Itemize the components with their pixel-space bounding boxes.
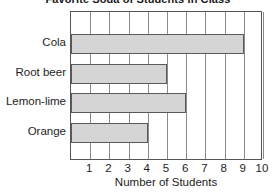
bar: [71, 34, 244, 54]
category-label: Lemon-lime: [0, 95, 66, 107]
x-tick-label: 10: [251, 162, 273, 174]
gridline: [263, 12, 264, 159]
value-axis-ticks: 12345678910: [70, 162, 262, 176]
category-label: Orange: [0, 125, 66, 137]
x-axis-title: Number of Students: [70, 176, 262, 188]
bar: [71, 123, 148, 143]
bar: [71, 93, 186, 113]
category-label: Cola: [0, 36, 66, 48]
gridline: [244, 12, 245, 159]
category-axis-labels: ColaRoot beerLemon-limeOrange: [0, 11, 66, 160]
bar-chart: Favorite Soda of Students in Class ColaR…: [0, 0, 276, 193]
plot-area: [70, 11, 262, 160]
bar: [71, 64, 167, 84]
chart-title: Favorite Soda of Students in Class: [0, 0, 276, 5]
category-label: Root beer: [0, 66, 66, 78]
